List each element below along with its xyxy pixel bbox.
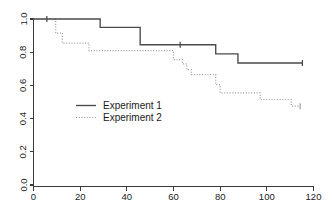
legend-label-experiment-2: Experiment 2: [103, 112, 162, 123]
x-tick-label-0: 0: [31, 191, 36, 202]
x-tick-label-4: 80: [215, 191, 226, 202]
survival-chart-figure: 1.0 0.8 0.6 0.4 0.2 0.0 0 20: [0, 0, 332, 219]
plot-canvas: 1.0 0.8 0.6 0.4 0.2 0.0 0 20: [0, 0, 332, 219]
x-tick-label-5: 100: [259, 191, 275, 202]
y-tick-label-1: 0.2: [18, 145, 29, 158]
y-tick-label-0: 0.0: [18, 178, 29, 191]
x-tick-label-1: 20: [75, 191, 86, 202]
legend-label-experiment-1: Experiment 1: [103, 100, 162, 111]
x-tick-label-6: 120: [306, 191, 322, 202]
y-tick-label-3: 0.6: [18, 79, 29, 92]
y-tick-label-4: 0.8: [18, 46, 29, 59]
y-tick-label-5: 1.0: [18, 12, 29, 25]
x-tick-label-3: 60: [168, 191, 179, 202]
x-tick-label-2: 40: [122, 191, 133, 202]
y-tick-label-2: 0.4: [18, 112, 29, 125]
